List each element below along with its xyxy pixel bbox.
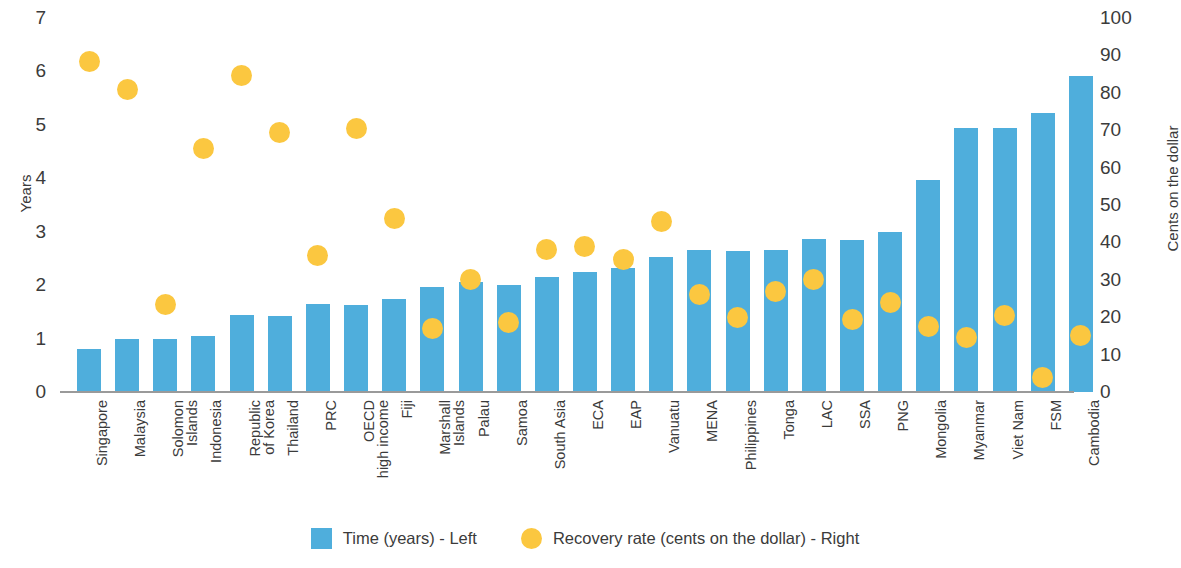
- bar: [916, 180, 940, 392]
- bar: [420, 287, 444, 392]
- scatter-dot: [1032, 367, 1053, 388]
- bar: [1031, 113, 1055, 392]
- legend-label: Recovery rate (cents on the dollar) - Ri…: [553, 529, 859, 548]
- scatter-dot: [994, 305, 1015, 326]
- bar: [191, 336, 215, 392]
- legend-label: Time (years) - Left: [343, 529, 477, 548]
- x-axis-category-label: Republic of Korea: [248, 400, 276, 512]
- x-axis-category-label: LAC: [820, 400, 834, 512]
- x-axis-category-label: PNG: [896, 400, 910, 512]
- scatter-dot: [918, 316, 939, 337]
- scatter-dot: [613, 249, 634, 270]
- x-axis-category-label: Solomon Islands: [171, 400, 199, 512]
- y-axis-right-tick: 50: [1100, 195, 1150, 214]
- y-axis-right-tick: 0: [1100, 382, 1150, 401]
- x-axis-category-label: FSM: [1049, 400, 1063, 512]
- x-axis-category-label: OECD high income: [362, 400, 390, 512]
- x-axis-category-label: EAP: [629, 400, 643, 512]
- bar: [153, 339, 177, 392]
- plot-area: [70, 10, 1070, 392]
- y-axis-right-tick: 10: [1100, 345, 1150, 364]
- bar: [77, 349, 101, 392]
- bar: [687, 250, 711, 392]
- y-axis-right-tick: 40: [1100, 232, 1150, 251]
- bar: [649, 257, 673, 392]
- legend-circle-icon: [521, 528, 542, 549]
- bar: [535, 277, 559, 392]
- legend-item[interactable]: Recovery rate (cents on the dollar) - Ri…: [521, 528, 859, 549]
- x-axis-category-label: Singapore: [95, 400, 109, 512]
- y-axis-right-tick: 100: [1100, 8, 1150, 27]
- bar: [573, 272, 597, 392]
- scatter-dot: [346, 118, 367, 139]
- x-axis-category-label: PRC: [324, 400, 338, 512]
- y-axis-right-tick: 60: [1100, 158, 1150, 177]
- scatter-dot: [155, 294, 176, 315]
- chart-legend: Time (years) - LeftRecovery rate (cents …: [0, 528, 1170, 549]
- bar: [497, 285, 521, 392]
- y-axis-left-tick: 1: [6, 329, 46, 348]
- x-axis-category-label: Indonesia: [209, 400, 223, 512]
- x-axis-category-label: Vanuatu: [667, 400, 681, 512]
- bar: [954, 128, 978, 392]
- y-axis-right-tick: 80: [1100, 83, 1150, 102]
- legend-square-icon: [311, 528, 332, 549]
- bar: [993, 128, 1017, 392]
- y-axis-right-title: Cents on the dollar: [1164, 109, 1181, 269]
- x-axis-category-label: MENA: [705, 400, 719, 512]
- y-axis-right-tick: 70: [1100, 120, 1150, 139]
- scatter-dot: [117, 79, 138, 100]
- bar: [611, 268, 635, 392]
- scatter-dot: [651, 211, 672, 232]
- bar: [306, 304, 330, 392]
- bar: [115, 339, 139, 392]
- x-axis-category-label: Tonga: [782, 400, 796, 512]
- bar: [230, 315, 254, 392]
- y-axis-left-tick: 6: [6, 61, 46, 80]
- bar: [268, 316, 292, 392]
- x-axis-category-label: ECA: [591, 400, 605, 512]
- x-axis-category-label: Viet Nam: [1011, 400, 1025, 512]
- y-axis-left-tick: 3: [6, 222, 46, 241]
- scatter-dot: [689, 284, 710, 305]
- x-axis-category-label: Cambodia: [1087, 400, 1101, 512]
- scatter-dot: [231, 65, 252, 86]
- y-axis-left-tick: 4: [6, 168, 46, 187]
- x-axis-category-label: Samoa: [515, 400, 529, 512]
- scatter-dot: [727, 307, 748, 328]
- scatter-dot: [422, 318, 443, 339]
- bar: [802, 239, 826, 392]
- y-axis-left-tick: 2: [6, 275, 46, 294]
- y-axis-left-tick: 5: [6, 115, 46, 134]
- x-axis-category-label: Palau: [477, 400, 491, 512]
- x-axis-category-label: Myanmar: [972, 400, 986, 512]
- scatter-dot: [574, 236, 595, 257]
- y-axis-left-tick: 7: [6, 8, 46, 27]
- x-axis-category-label: Malaysia: [133, 400, 147, 512]
- scatter-dot: [193, 138, 214, 159]
- scatter-dot: [307, 245, 328, 266]
- x-axis-category-label: Mongolia: [934, 400, 948, 512]
- x-axis-category-label: Marshall Islands: [438, 400, 466, 512]
- bar: [344, 305, 368, 392]
- scatter-dot: [79, 51, 100, 72]
- scatter-dot: [842, 309, 863, 330]
- scatter-dot: [269, 122, 290, 143]
- x-axis-line: [60, 391, 1074, 393]
- x-axis-category-label: SSA: [858, 400, 872, 512]
- scatter-dot: [880, 292, 901, 313]
- x-axis-category-label: Fiji: [400, 400, 414, 512]
- scatter-dot: [384, 208, 405, 229]
- x-axis-category-label: Philippines: [744, 400, 758, 512]
- y-axis-left-tick: 0: [6, 382, 46, 401]
- scatter-dot: [536, 239, 557, 260]
- bar: [459, 282, 483, 392]
- y-axis-right-tick: 90: [1100, 45, 1150, 64]
- bar: [382, 299, 406, 393]
- x-axis-category-label: South Asia: [553, 400, 567, 512]
- y-axis-right-tick: 30: [1100, 270, 1150, 289]
- x-axis-category-label: Thailand: [286, 400, 300, 512]
- legend-item[interactable]: Time (years) - Left: [311, 528, 477, 549]
- bar: [764, 250, 788, 392]
